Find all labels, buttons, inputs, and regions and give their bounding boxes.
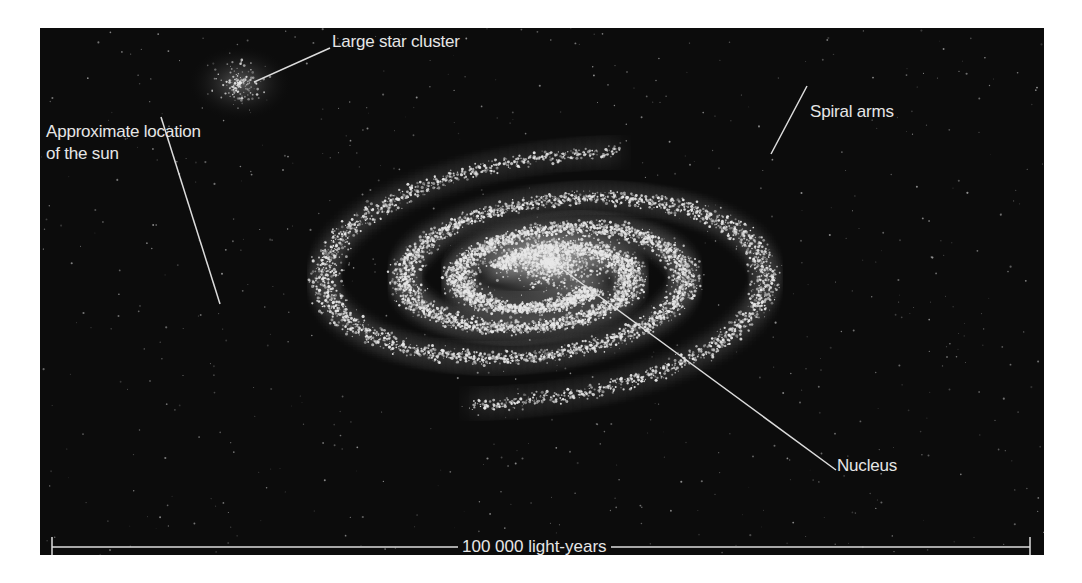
leader-line-sun-location: [161, 117, 220, 304]
leader-line-spiral-arms: [771, 86, 807, 154]
label-sun-location-line1: Approximate location: [46, 122, 201, 142]
galaxy-illustration-panel: Large star cluster Approximate location …: [40, 28, 1044, 555]
label-nucleus: Nucleus: [837, 456, 897, 476]
scale-bar-label: 100 000 light-years: [458, 537, 611, 555]
label-spiral-arms: Spiral arms: [810, 102, 894, 122]
leader-line-nucleus: [558, 266, 836, 470]
label-large-star-cluster: Large star cluster: [332, 32, 460, 52]
label-sun-location-line2: of the sun: [46, 144, 119, 164]
